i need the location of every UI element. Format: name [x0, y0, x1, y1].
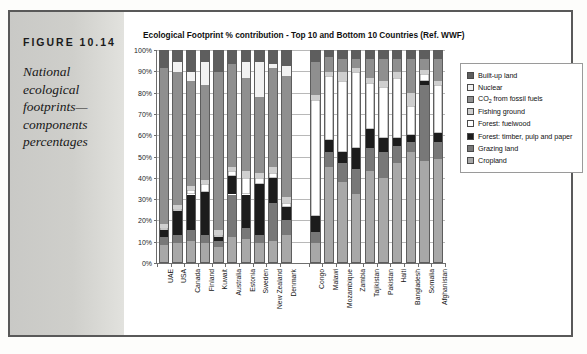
bar-segment [379, 178, 387, 262]
bar-segment [269, 173, 277, 177]
bar-new-zealand[interactable] [268, 50, 278, 263]
legend-item-cropland[interactable]: Cropland [467, 154, 577, 166]
bar-segment [338, 152, 346, 163]
x-axis-label-canada: Canada [194, 269, 201, 293]
bar-segment [338, 182, 346, 262]
bar-pakistan[interactable] [378, 50, 388, 263]
bar-segment [242, 239, 250, 262]
bar-bangladesh[interactable] [406, 50, 416, 263]
legend-item-forest-fuelwood[interactable]: Forest: fuelwood [467, 118, 577, 130]
bar-segment [187, 241, 195, 262]
x-axis-tick [363, 263, 364, 267]
bar-segment [393, 59, 401, 72]
bar-segment [366, 59, 374, 78]
x-axis-tick [198, 263, 199, 267]
bar-segment [366, 78, 374, 82]
y-axis-tick-label: 30% [138, 196, 152, 203]
bar-segment [228, 171, 236, 175]
bar-segment [228, 64, 236, 167]
bar-segment [228, 195, 236, 237]
x-axis-label-finland: Finland [208, 269, 215, 291]
y-axis-tick-label: 20% [138, 217, 152, 224]
x-axis-tick [445, 263, 446, 267]
bar-segment [407, 93, 415, 106]
bar-segment [352, 51, 360, 59]
bar-segment [338, 81, 346, 153]
legend-item-label: Forest: timber, pulp and paper [478, 132, 572, 141]
bar-segment [311, 62, 319, 96]
legend-item-grazing-land[interactable]: Grazing land [467, 142, 577, 154]
bar-segment [187, 186, 195, 190]
bar-segment [434, 81, 442, 85]
legend-item-nuclear[interactable]: Nuclear [467, 81, 577, 93]
bar-segment [311, 243, 319, 262]
bar-congo[interactable] [310, 50, 320, 263]
bar-segment [311, 95, 319, 99]
bar-segment [366, 171, 374, 262]
bar-segment [420, 70, 428, 74]
bar-denmark[interactable] [281, 50, 291, 263]
legend-item-forest-timber-pulp-and-paper[interactable]: Forest: timber, pulp and paper [467, 130, 577, 142]
legend-item-built-up-land[interactable]: Built-up land [467, 69, 577, 81]
bar-segment [393, 146, 401, 163]
bar-uae[interactable] [159, 50, 169, 263]
bar-segment [269, 167, 277, 173]
y-axis-tick-label: 90% [138, 68, 152, 75]
y-axis-tick-label: 80% [138, 89, 152, 96]
figure-caption-panel: FIGURE 10.14 National ecological footpri… [10, 12, 124, 335]
bar-afghanistan[interactable] [433, 50, 443, 263]
bar-segment [420, 81, 428, 85]
x-axis-label-uae: UAE [167, 269, 174, 283]
bar-segment [255, 178, 263, 184]
bar-segment [420, 51, 428, 59]
bar-segment [242, 78, 250, 171]
bar-segment [311, 232, 319, 243]
bar-kuwait[interactable] [213, 50, 223, 263]
bar-segment [366, 83, 374, 129]
bar-segment [269, 68, 277, 167]
bar-segment [311, 216, 319, 233]
x-axis-label-tajikistan: Tajikistan [373, 269, 380, 297]
legend-item-co2-from-fossil-fuels[interactable]: CO2 from fossil fuels [467, 93, 577, 105]
bar-segment [407, 152, 415, 262]
bar-segment [228, 237, 236, 262]
bar-finland[interactable] [200, 50, 210, 263]
bar-canada[interactable] [186, 50, 196, 263]
x-axis-label-kuwait: Kuwait [221, 269, 228, 289]
bar-australia[interactable] [227, 50, 237, 263]
bar-malawi[interactable] [324, 50, 334, 263]
bar-segment [255, 173, 263, 177]
x-axis-tick [377, 263, 378, 267]
legend-item-label: Forest: fuelwood [478, 119, 530, 128]
x-axis-label-haiti: Haiti [400, 269, 407, 283]
bar-segment [160, 228, 168, 230]
bar-segment [379, 138, 387, 153]
bar-segment [379, 81, 387, 87]
bar-haiti[interactable] [392, 50, 402, 263]
x-axis-tick [336, 263, 337, 267]
bar-segment [338, 72, 346, 80]
bar-mozambique[interactable] [337, 50, 347, 263]
bar-segment [379, 51, 387, 59]
bar-usa[interactable] [172, 50, 182, 263]
legend-item-fishing-ground[interactable]: Fishing ground [467, 106, 577, 118]
bar-segment [379, 59, 387, 80]
bar-segment [255, 51, 263, 62]
bar-tajikistan[interactable] [365, 50, 375, 263]
bar-segment [393, 78, 401, 137]
bar-segment [187, 195, 195, 231]
legend-swatch-icon [467, 157, 474, 164]
x-axis-label-denmark: Denmark [290, 269, 297, 297]
bar-segment [282, 235, 290, 262]
bar-segment [366, 148, 374, 171]
bar-segment [282, 51, 290, 66]
bar-sweden[interactable] [254, 50, 264, 263]
bar-segment [407, 59, 415, 93]
bar-zambia[interactable] [351, 50, 361, 263]
bar-somalia[interactable] [419, 50, 429, 263]
chart-area: Ecological Footprint % contribution - To… [124, 12, 571, 335]
x-axis-tick [390, 263, 391, 267]
bar-estonia[interactable] [241, 50, 251, 263]
x-axis-tick [253, 263, 254, 267]
bar-segment [173, 72, 181, 205]
